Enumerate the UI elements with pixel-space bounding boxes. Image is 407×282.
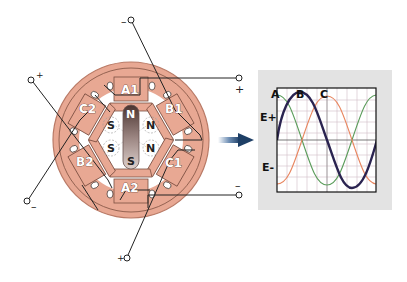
sign-right-plus: + [235,83,244,96]
sign-right-minus: – [235,179,241,192]
series-label-b: B [296,88,304,101]
terminal-right-bottom [236,192,242,198]
terminal-bottom [124,255,130,261]
coil-label-a1: A1 [121,83,139,97]
field-pole-right-bottom: N [146,142,155,155]
coil-label-c2: C2 [79,102,96,116]
field-pole-left-bottom: S [107,142,115,155]
field-pole-left-top: S [107,119,115,132]
y-tick-e-minus: E- [262,161,274,174]
waveform-chart: A B C E+ E- [258,70,392,210]
arrow-icon [218,133,254,147]
y-tick-e-plus: E+ [260,111,277,124]
terminal-right-top [236,75,242,81]
terminal-top [128,17,134,23]
series-label-a: A [271,88,280,101]
sign-left-minus: – [31,200,37,213]
series-label-c: C [320,88,328,101]
sign-left-plus: + [36,70,44,80]
terminal-left-top [28,77,34,83]
diagram-canvas: – + – + – + A1 A2 B1 B2 C1 C2 N S S S N … [0,0,407,282]
sign-bottom-plus: + [117,253,125,263]
field-pole-right-top: N [146,119,155,132]
coil-label-c1: C1 [165,156,182,170]
coil-label-b1: B1 [165,102,183,116]
rotor-south-label: S [127,155,135,168]
sign-top-minus: – [121,15,127,28]
terminal-left-bottom [24,198,30,204]
coil-label-b2: B2 [76,155,94,169]
coil-label-a2: A2 [121,181,139,195]
rotor-north-label: N [126,108,135,121]
